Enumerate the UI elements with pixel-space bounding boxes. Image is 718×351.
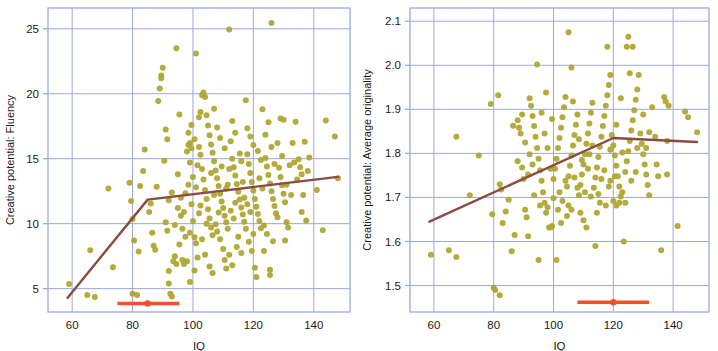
data-point [476,153,482,159]
data-point [231,215,237,221]
scatter-points [66,20,341,300]
data-point [182,234,188,240]
data-point [264,231,270,237]
data-point [247,209,253,215]
data-point [232,173,238,179]
data-point [530,161,536,167]
x-tick-labels: 6080100120140 [66,319,324,331]
data-point [281,117,287,123]
data-point [585,166,591,172]
data-point [234,181,240,187]
data-point [207,132,213,138]
data-point [531,123,537,129]
data-point [576,192,582,198]
data-point [175,171,181,177]
data-point [146,209,152,215]
data-point [155,98,161,104]
data-point [564,183,570,189]
data-point [604,92,610,98]
data-point [244,201,250,207]
data-point [625,148,631,154]
data-point [300,192,306,198]
data-point [205,123,211,129]
data-point [642,161,648,167]
data-point [201,176,207,182]
data-point [258,157,264,163]
data-point [527,95,533,101]
x-axis-title: IQ [193,340,205,351]
data-point [291,160,297,166]
data-point [446,247,452,253]
data-point [252,196,258,202]
data-point [540,189,546,195]
data-point [561,104,567,110]
data-point [618,95,624,101]
data-point [627,70,633,76]
data-point [551,195,557,201]
data-point [634,87,640,93]
data-point [169,293,175,299]
data-point [633,169,639,175]
data-point [666,103,672,109]
data-point [613,163,619,169]
x-tick-label: 100 [183,319,202,331]
data-point [640,151,646,157]
x-tick-labels: 6080100120140 [428,319,683,331]
data-point [637,131,643,137]
data-point [634,145,640,151]
data-point [299,171,305,177]
data-point [640,112,646,118]
data-point [175,205,181,211]
data-point [190,218,196,224]
data-point [229,156,235,162]
data-point [84,292,90,298]
data-point [585,131,591,137]
data-point [543,90,549,96]
data-point [539,178,545,184]
data-point [314,187,320,193]
data-point [216,183,222,189]
data-point [211,158,217,164]
data-point [179,226,185,232]
data-point [214,228,220,234]
y-tick-label: 1.6 [385,236,401,248]
data-point [577,210,583,216]
data-point [320,227,326,233]
data-point [603,202,609,208]
data-point [176,112,182,118]
data-point [216,210,222,216]
data-point [600,123,606,129]
data-point [190,174,196,180]
data-point [157,86,163,92]
data-point [217,236,223,242]
data-point [181,209,187,215]
data-point [583,141,589,147]
breakpoint-marker [117,300,179,306]
data-point [255,148,261,154]
data-point [595,191,601,197]
data-point [568,207,574,213]
data-point [187,140,193,146]
data-point [204,221,210,227]
tick-marks [43,29,48,289]
data-point [204,196,210,202]
data-point [222,257,228,263]
data-point [285,225,291,231]
data-point [570,142,576,148]
data-point [567,163,573,169]
data-point [654,161,660,167]
data-point [522,139,528,145]
data-point [265,119,271,125]
data-point [519,112,525,118]
data-point [624,158,630,164]
data-point [278,174,284,180]
data-point [210,232,216,238]
data-point [199,236,205,242]
data-point [598,176,604,182]
data-point [649,104,655,110]
data-point [595,154,601,160]
data-point [149,230,155,236]
data-point [607,72,613,78]
data-point [583,224,589,230]
data-point [628,127,634,133]
